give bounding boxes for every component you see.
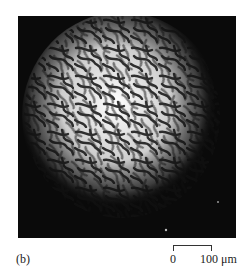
micrograph-image [18, 16, 236, 238]
labyrinth-domain-micrograph [18, 16, 236, 238]
scale-bar-start-label: 0 [170, 252, 176, 267]
scale-bar-end-label: 100 μm [200, 252, 237, 267]
scale-bar [173, 245, 212, 251]
panel-label: (b) [16, 252, 30, 267]
